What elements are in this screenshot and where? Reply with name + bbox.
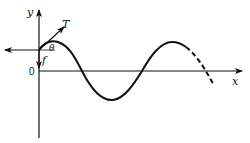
angle-label: θ — [49, 43, 55, 53]
tension-label: T — [62, 18, 71, 31]
origin-label: 0 — [29, 66, 35, 77]
y-axis-label: y — [26, 6, 34, 19]
x-axis-label: x — [232, 75, 239, 88]
wave-diagram: y x 0 T θ f — [0, 0, 250, 143]
wave-curve-dashed — [186, 47, 214, 85]
force-f-label: f — [41, 54, 48, 67]
